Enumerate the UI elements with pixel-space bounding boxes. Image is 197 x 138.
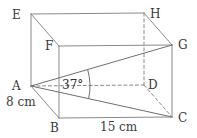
dimension-label-8cm: 8 cm	[6, 96, 36, 108]
angle-arc	[88, 70, 90, 99]
vertex-label-G: G	[178, 39, 188, 51]
cuboid-diagram-canvas: E H F G A D B C 37° 8 cm 15 cm	[0, 0, 197, 138]
vertex-label-C: C	[178, 112, 187, 124]
edge-BC	[59, 117, 172, 118]
vertex-label-F: F	[45, 40, 53, 52]
vertex-label-A: A	[12, 80, 21, 92]
vertex-label-E: E	[12, 9, 21, 21]
vertex-label-D: D	[148, 79, 158, 91]
angle-arc-group	[88, 70, 90, 99]
vertex-label-H: H	[150, 8, 160, 20]
edge-AD	[31, 85, 144, 86]
angle-label-37deg: 37°	[62, 79, 83, 91]
cuboid-figure	[0, 0, 197, 138]
edge-EH	[31, 13, 144, 14]
edge-FG	[59, 45, 172, 46]
dimension-label-15cm: 15 cm	[100, 121, 137, 133]
vertex-label-B: B	[50, 122, 59, 134]
